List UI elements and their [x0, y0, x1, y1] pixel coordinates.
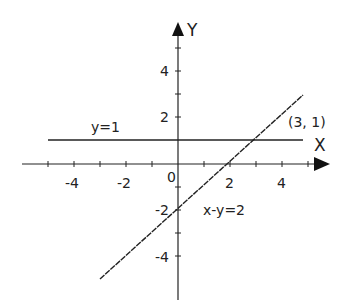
y-axis-label: Y	[187, 22, 197, 39]
line1-label: y=1	[91, 120, 120, 134]
y-tick-label-2: 2	[160, 110, 169, 124]
y-tick-label-m4: -4	[155, 250, 169, 264]
x-tick-label-m4: -4	[65, 176, 79, 190]
y-axis-arrow-icon	[172, 22, 184, 36]
x-tick-label-m2: -2	[117, 176, 131, 190]
line2-label: x-y=2	[203, 203, 245, 217]
intersection-label: (3, 1)	[288, 115, 326, 129]
origin-label: 0	[167, 170, 176, 184]
graph-canvas	[0, 0, 352, 307]
y-tick-label-m2: -2	[155, 203, 169, 217]
x-tick-label-4: 4	[277, 176, 286, 190]
x-axis-arrow-icon	[314, 157, 330, 171]
y-tick-label-4: 4	[160, 64, 169, 78]
x-tick-label-2: 2	[225, 176, 234, 190]
x-axis-label: X	[314, 137, 326, 154]
